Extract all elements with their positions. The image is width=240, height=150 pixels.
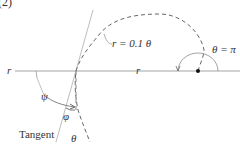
equation-leader <box>104 34 112 44</box>
axis-label-left: r <box>7 65 11 76</box>
axis-tick <box>36 71 37 78</box>
theta-pi-label: θ = π <box>212 44 236 55</box>
tangent-line <box>56 10 93 142</box>
phi-label: φ <box>63 111 69 122</box>
axis-label-right: r <box>136 65 140 76</box>
psi-arc <box>44 95 74 107</box>
theta-pi-arc <box>178 53 218 71</box>
pole-dot <box>196 69 200 73</box>
tangent-label: Tangent <box>19 129 54 140</box>
spiral-curve <box>75 14 204 142</box>
theta-label: θ <box>71 133 76 144</box>
panel-label: (2) <box>0 0 12 8</box>
equation-label: r = 0.1 θ <box>112 38 151 49</box>
psi-label: ψ <box>41 91 48 102</box>
